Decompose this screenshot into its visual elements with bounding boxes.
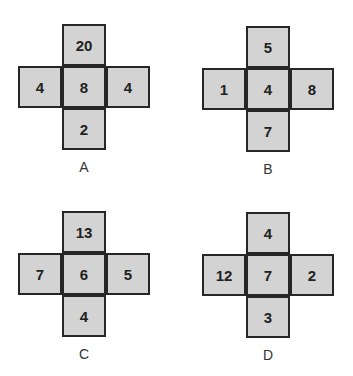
cell-bottom: 3 — [246, 296, 290, 338]
cell-center: 6 — [62, 253, 106, 295]
cell-bottom: 4 — [62, 295, 106, 337]
cell-top: 13 — [62, 211, 106, 253]
cell-right: 5 — [106, 253, 150, 295]
cell-bottom: 2 — [62, 108, 106, 150]
cell-top: 5 — [246, 26, 290, 68]
cross-figure-d: 4 12 7 2 3 D — [202, 212, 334, 362]
figure-label: D — [202, 347, 334, 363]
cell-right: 4 — [106, 66, 150, 108]
cross-figure-a: 20 4 8 4 2 A — [18, 24, 150, 174]
cross-figure-b: 5 1 4 8 7 B — [202, 26, 334, 176]
figure-label: C — [18, 346, 150, 362]
cell-bottom: 7 — [246, 110, 290, 152]
figure-label: B — [202, 161, 334, 177]
cross-figure-c: 13 7 6 5 4 C — [18, 211, 150, 361]
cell-left: 1 — [202, 68, 246, 110]
cell-top: 4 — [246, 212, 290, 254]
cell-left: 7 — [18, 253, 62, 295]
cell-left: 12 — [202, 254, 246, 296]
cell-center: 4 — [246, 68, 290, 110]
cell-center: 8 — [62, 66, 106, 108]
cell-right: 8 — [290, 68, 334, 110]
cell-center: 7 — [246, 254, 290, 296]
figure-label: A — [18, 159, 150, 175]
cell-left: 4 — [18, 66, 62, 108]
cell-top: 20 — [62, 24, 106, 66]
cell-right: 2 — [290, 254, 334, 296]
